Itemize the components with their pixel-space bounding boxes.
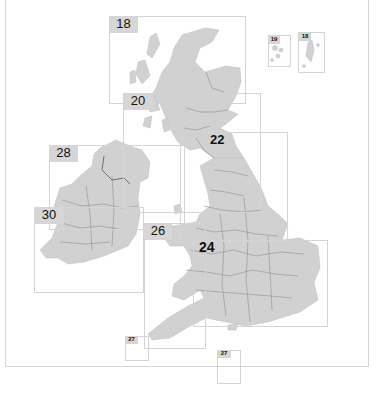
page-label-26[interactable]: 26 bbox=[144, 223, 172, 240]
page-label-30[interactable]: 30 bbox=[34, 207, 64, 224]
page-label-27-scilly[interactable]: 27 bbox=[125, 336, 138, 344]
page-label-22[interactable]: 22 bbox=[210, 132, 224, 147]
page-label-18-shetland[interactable]: 18 bbox=[299, 33, 311, 41]
page-label-27-channel[interactable]: 27 bbox=[217, 350, 231, 358]
page-label-18[interactable]: 18 bbox=[109, 16, 138, 33]
page-label-28[interactable]: 28 bbox=[49, 145, 78, 162]
page-label-24[interactable]: 24 bbox=[199, 239, 215, 255]
page-label-20[interactable]: 20 bbox=[123, 93, 153, 110]
page-label-19[interactable]: 19 bbox=[268, 36, 280, 44]
